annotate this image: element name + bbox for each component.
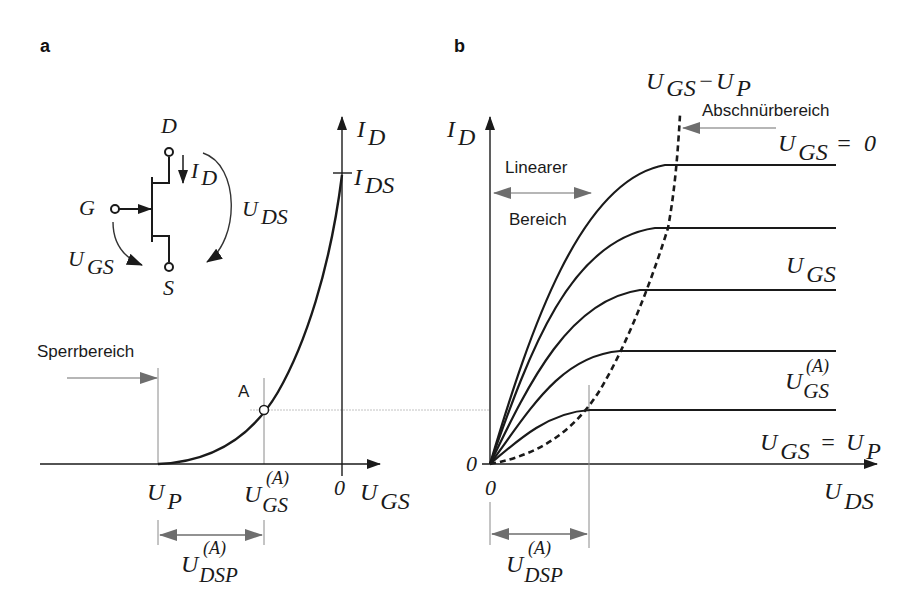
curve-label-ugs-up: UGS=UP	[760, 429, 881, 464]
linearer-label: Linearer	[505, 158, 568, 177]
b-x-axis-label: UDS	[824, 478, 874, 514]
b-origin-y-label: 0	[466, 451, 477, 476]
ids-tick-label: IDS	[353, 164, 394, 198]
panel-a: a D G S ID UDS UGS	[37, 36, 490, 587]
circuit-uds-label: UDS	[242, 196, 288, 229]
a-udsp-label: UDSP(A)	[181, 538, 238, 587]
curve-label-ugs-0: UGS= 0	[778, 130, 876, 165]
jfet-symbol	[111, 148, 183, 271]
a-x-zero-label: 0	[334, 475, 345, 500]
panel-b-label: b	[454, 36, 465, 56]
curve-label-ugs: UGS	[786, 252, 836, 287]
a-x-axis-label: UGS	[360, 479, 410, 514]
curve-label-ugs-a: UGS(A)	[785, 356, 830, 403]
sperrbereich-label: Sperrbereich	[37, 342, 134, 361]
drain-label: D	[160, 113, 177, 138]
b-udsp-label: UDSP(A)	[506, 538, 563, 587]
point-a-label: A	[238, 382, 250, 401]
jfet-characteristics-figure: a D G S ID UDS UGS	[0, 0, 920, 610]
operating-point-a	[260, 406, 269, 415]
ugs-arc-arrow	[113, 222, 142, 265]
gate-label: G	[79, 195, 95, 220]
pinchoff-formula-label: UGS−UP	[646, 68, 751, 101]
circuit-ugs-label: UGS	[68, 246, 114, 279]
ugsa-tick-label: UGS(A)	[244, 468, 289, 517]
a-y-axis-label: ID	[356, 116, 385, 150]
up-tick-label: UP	[147, 479, 182, 514]
source-label: S	[163, 275, 174, 300]
panel-b: b ID 0 0 UDS UGS−UP Abschnürbereich Line…	[446, 36, 881, 587]
bereich-label: Bereich	[509, 210, 567, 229]
abschnuerbereich-label: Abschnürbereich	[702, 101, 830, 120]
b-y-axis-label: ID	[446, 116, 475, 150]
circuit-id-label: ID	[190, 158, 217, 190]
curve-ugs-2	[490, 228, 836, 464]
b-origin-x-label: 0	[485, 475, 496, 500]
panel-a-label: a	[40, 36, 51, 56]
